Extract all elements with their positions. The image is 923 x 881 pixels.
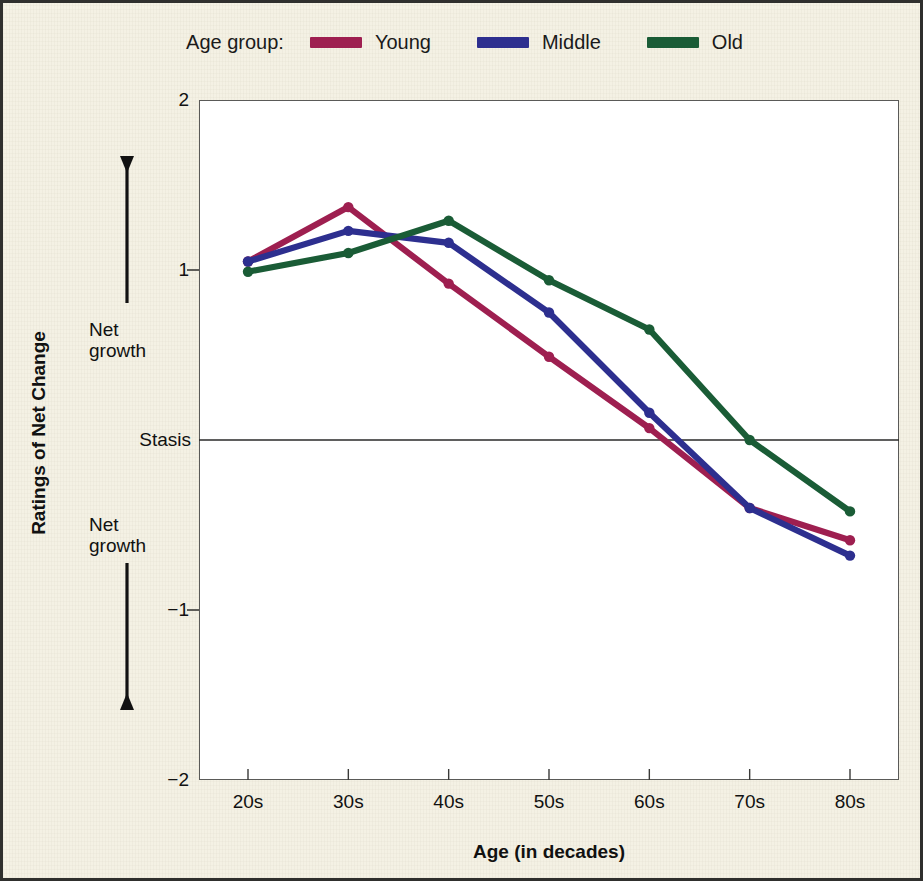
x-tick-label-60s: 60s: [634, 791, 665, 813]
plot-area: [199, 100, 899, 780]
stasis-axis-label: Stasis: [63, 429, 191, 451]
legend-swatch-old: [647, 37, 699, 48]
legend-entry-old: Old: [647, 31, 743, 54]
y-tick-label-neg1: −1: [149, 599, 189, 621]
y-axis-title: Ratings of Net Change: [28, 331, 50, 535]
legend-swatch-middle: [477, 37, 529, 48]
x-tick-label-30s: 30s: [333, 791, 364, 813]
legend-title: Age group:: [186, 31, 284, 54]
y-tick-label-2: 2: [149, 89, 189, 111]
legend-swatch-young: [310, 37, 362, 48]
x-tick-label-80s: 80s: [835, 791, 866, 813]
x-axis-tick-labels: 20s30s40s50s60s70s80s: [199, 791, 899, 819]
x-tick-label-70s: 70s: [734, 791, 765, 813]
y-tick-label-neg2: −2: [149, 769, 189, 791]
net-growth-down-annotation: Netgrowth: [89, 515, 193, 556]
legend-label-young: Young: [375, 31, 431, 54]
net-growth-up-annotation: Netgrowth: [89, 320, 193, 361]
legend: Age group: Young Middle Old: [3, 31, 923, 54]
x-tick-label-50s: 50s: [534, 791, 565, 813]
legend-entry-young: Young: [310, 31, 431, 54]
x-axis-title: Age (in decades): [199, 841, 899, 863]
y-tick-label-1: 1: [149, 259, 189, 281]
figure-panel: Age group: Young Middle Old Ratings of N…: [0, 0, 923, 881]
legend-label-middle: Middle: [542, 31, 601, 54]
legend-label-old: Old: [712, 31, 743, 54]
x-tick-label-20s: 20s: [233, 791, 264, 813]
x-tick-label-40s: 40s: [433, 791, 464, 813]
legend-entry-middle: Middle: [477, 31, 601, 54]
